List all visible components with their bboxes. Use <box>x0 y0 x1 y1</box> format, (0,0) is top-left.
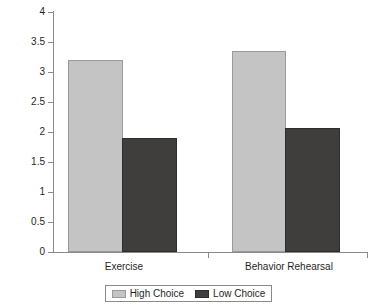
y-axis-tick-label: 3 <box>5 67 45 77</box>
y-axis-tick-label: 2 <box>5 127 45 137</box>
y-axis-tick-label: 0.5 <box>5 217 45 227</box>
y-axis-tick-label: 0 <box>5 247 45 257</box>
x-axis-category-label-exercise: Exercise <box>74 261 174 273</box>
y-axis-tick-label: 1.5 <box>5 157 45 167</box>
bar-chart: 4 3.5 3 2.5 2 1.5 1 0.5 0 Exercise Behav… <box>0 0 377 308</box>
legend-label-high-choice: High Choice <box>130 288 184 299</box>
x-axis-tick <box>208 252 209 258</box>
y-axis-tick-label: 2.5 <box>5 97 45 107</box>
legend-label-low-choice: Low Choice <box>213 288 265 299</box>
bar-exercise-low-choice <box>122 138 177 252</box>
x-axis-tick-end <box>367 252 368 258</box>
y-axis-tick-label: 3.5 <box>5 37 45 47</box>
x-axis-line <box>53 252 368 253</box>
legend-entry-low-choice: Low Choice <box>195 288 265 299</box>
y-axis-tick-label: 4 <box>5 7 45 17</box>
legend-swatch-icon-high-choice <box>112 290 126 298</box>
y-axis-tick-label: 1 <box>5 187 45 197</box>
bar-behavior-rehearsal-high-choice <box>232 51 286 252</box>
y-axis-tick <box>48 252 54 253</box>
chart-legend: High Choice Low Choice <box>105 285 272 302</box>
x-axis-category-label-behavior-rehearsal: Behavior Rehearsal <box>226 261 352 273</box>
plot-area <box>54 12 368 252</box>
legend-entry-high-choice: High Choice <box>112 288 184 299</box>
bar-exercise-high-choice <box>68 60 123 252</box>
legend-swatch-icon-low-choice <box>195 290 209 298</box>
bar-behavior-rehearsal-low-choice <box>285 128 340 252</box>
